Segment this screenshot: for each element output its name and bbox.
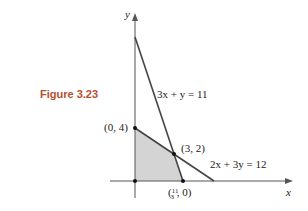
point-0-4	[133, 126, 137, 130]
y-axis-label: y	[124, 8, 130, 20]
x-axis-arrow-icon	[285, 178, 293, 184]
point-11-3-0	[181, 179, 185, 183]
x-axis-label: x	[285, 186, 291, 198]
y-axis-arrow-icon	[132, 13, 138, 21]
point-label-3-2: (3, 2)	[181, 142, 205, 155]
point-label-11-3-0: (113 , 0)	[168, 186, 192, 201]
diagram: y x 3x + y = 11 2x + 3y = 12 (0, 4) (3, …	[0, 0, 308, 211]
line-label-1: 3x + y = 11	[157, 88, 208, 100]
point-label-0-4: (0, 4)	[104, 121, 128, 134]
line-label-2: 2x + 3y = 12	[210, 158, 266, 170]
point-origin	[133, 179, 137, 183]
point-3-2	[172, 152, 176, 156]
